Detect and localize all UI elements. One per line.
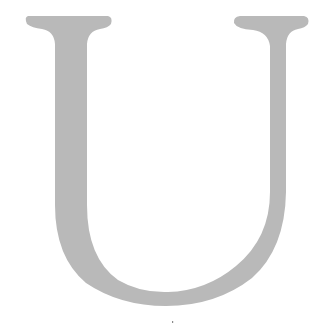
letter-u-shape <box>26 16 309 306</box>
dot-mark <box>172 321 173 323</box>
letter-u-glyph <box>0 0 328 325</box>
